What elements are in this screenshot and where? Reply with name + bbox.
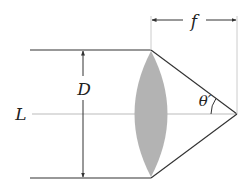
focal-length-label: f [189,11,200,31]
angle-arc [211,99,216,115]
axis-label: L [14,104,26,124]
angle-label: θ′ [199,92,212,110]
diameter-label: D [76,79,91,99]
lens-diagram: D L f θ′ [0,0,252,191]
lens [135,51,168,177]
